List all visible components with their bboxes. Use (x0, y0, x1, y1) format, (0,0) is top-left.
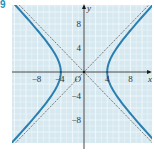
x-tick-label: 4 (105, 74, 110, 84)
x-axis-label: x (147, 74, 152, 84)
y-tick-label: 8 (77, 19, 82, 29)
y-tick-label: 4 (77, 43, 82, 53)
x-tick-label: 8 (128, 74, 133, 84)
y-axis-label: y (86, 3, 91, 13)
x-tick-label: −8 (32, 74, 42, 84)
x-tick-label: −4 (55, 74, 65, 84)
origin-point (83, 71, 86, 74)
y-tick-label: −8 (71, 115, 81, 125)
hyperbola-chart: −8−44884−4−8Oxy (0, 0, 154, 152)
origin-label: O (75, 74, 82, 84)
y-tick-label: −4 (71, 91, 81, 101)
